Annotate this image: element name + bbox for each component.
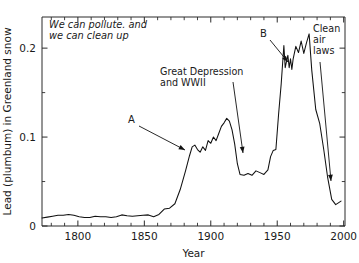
y-tick-label: 0: [29, 220, 36, 232]
y-tick-label: 0.2: [19, 42, 36, 54]
x-tick-label: 1800: [65, 230, 92, 242]
y-axis-title: Lead (plumbum) in Greenland snow: [1, 27, 13, 215]
great-depression-note-line: Great Depression: [160, 66, 243, 77]
marker-b-line: B: [260, 28, 267, 39]
x-tick-label: 1850: [131, 230, 158, 242]
chart-figure: 1800185019001950200000.10.2 We can pollu…: [0, 0, 359, 263]
marker-a-line: A: [128, 114, 135, 125]
x-tick-label: 1900: [197, 230, 224, 242]
headline-note-line: we can clean up: [49, 30, 129, 41]
x-tick-label: 2000: [330, 230, 357, 242]
clean-air-laws-note-line: air: [313, 34, 326, 45]
x-axis-title: Year: [181, 247, 205, 259]
y-tick-label: 0.1: [19, 131, 36, 143]
headline-note-line: We can pollute. and: [49, 19, 148, 30]
lead-in-greenland-snow-chart: 1800185019001950200000.10.2 We can pollu…: [0, 0, 359, 263]
clean-air-laws-note-line: laws: [313, 45, 334, 56]
clean-air-laws-note-line: Clean: [313, 23, 340, 34]
x-tick-label: 1950: [264, 230, 291, 242]
great-depression-note-line: and WWII: [160, 77, 206, 88]
